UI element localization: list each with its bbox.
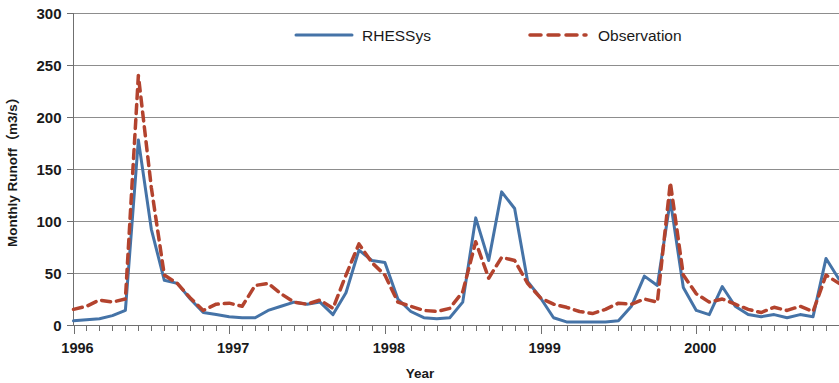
y-axis-ticks: 050100150200250300 xyxy=(36,5,73,334)
y-tick-label: 200 xyxy=(36,109,61,126)
chart-legend: RHESSys Observation xyxy=(296,27,682,44)
x-tick-label: 1999 xyxy=(528,340,560,356)
x-axis-labels: 19961997199819992000 xyxy=(61,340,716,356)
y-tick-label: 50 xyxy=(45,265,62,282)
x-axis-title: Year xyxy=(406,366,435,381)
x-axis-ticks xyxy=(75,325,839,334)
y-tick-label: 150 xyxy=(36,161,61,178)
chart-canvas: 050100150200250300 19961997199819992000 … xyxy=(0,0,839,383)
y-tick-label: 100 xyxy=(36,213,61,230)
x-tick-label: 1998 xyxy=(373,340,405,356)
data-series xyxy=(74,75,839,321)
legend-label-observation: Observation xyxy=(598,27,682,44)
y-tick-label: 250 xyxy=(36,57,61,74)
y-tick-label: 300 xyxy=(36,5,61,22)
runoff-chart: 050100150200250300 19961997199819992000 … xyxy=(0,0,839,383)
y-tick-label: 0 xyxy=(53,317,61,334)
x-tick-label: 1997 xyxy=(217,340,249,356)
x-tick-label: 1996 xyxy=(61,340,93,356)
gridlines xyxy=(74,14,839,326)
x-tick-label: 2000 xyxy=(684,340,716,356)
series-observation xyxy=(74,75,839,313)
legend-label-rhessys: RHESSys xyxy=(362,27,431,44)
y-axis-title: Monthly Runoff（m3/s） xyxy=(5,91,20,247)
